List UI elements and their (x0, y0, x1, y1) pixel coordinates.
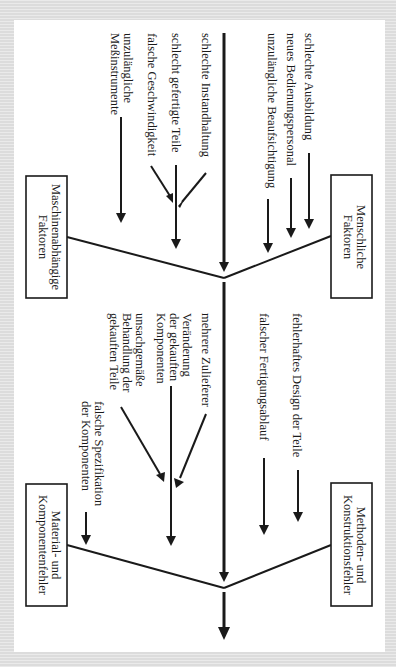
cause-label: schlechte Ausbildung (302, 33, 316, 141)
cause-label: Veränderung (180, 313, 194, 378)
cause-label: fehlerhaftes Design der Teile (290, 313, 304, 458)
cause-label: Komponenten (154, 313, 168, 385)
material-causes: mehrere Zulieferer Veränderung der gekau… (79, 313, 213, 546)
arrowhead-icon (156, 472, 165, 482)
arrowhead-icon (304, 219, 314, 229)
category-box-human: Menschliche Faktoren (331, 175, 372, 298)
method-cause-arrows (264, 458, 298, 527)
cause-label: mehrere Zulieferer (199, 313, 213, 408)
category-box-method: Methoden- und Konstruktionsfehler (331, 483, 372, 606)
fishbone-diagram: Menschliche Faktoren Maschinenabhängige … (0, 0, 396, 667)
arrowhead-icon (171, 239, 181, 249)
cause-label: falsche Spezifikation (92, 401, 106, 507)
cause-label: falsche Geschwindigkeit (145, 33, 159, 157)
cause-label: Meßinstrumente (108, 33, 122, 115)
arrowhead-icon (174, 478, 184, 488)
human-category-label-line1: Menschliche (354, 205, 368, 269)
cause-label: der gekauften (167, 313, 181, 382)
method-causes: fehlerhaftes Design der Teile falscher F… (257, 313, 304, 535)
arrowhead-icon (263, 243, 273, 253)
material-category-label-line1: Material- und (49, 511, 63, 580)
category-box-machine: Maschinenabhängige Faktoren (26, 176, 67, 298)
arrowhead-icon (259, 525, 269, 535)
arrowhead-icon (116, 213, 126, 223)
cause-label: neues Bedienungspersonal (284, 33, 298, 166)
material-category-label-line2: Komponentenfehler (36, 495, 50, 596)
cause-label: der Komponenten (79, 401, 93, 492)
category-box-material: Material- und Komponentenfehler (26, 484, 67, 606)
cause-label: unzulängliche (121, 33, 135, 104)
cause-label: gekauften Teile (107, 313, 121, 390)
lower-junction-lines (67, 545, 331, 588)
main-spine (218, 33, 230, 640)
machine-category-label-line1: Maschinenabhängige (49, 184, 63, 291)
cause-label: schlecht gefertigte Teile (169, 33, 183, 153)
method-category-label-line1: Methoden- und (354, 507, 368, 584)
cause-label: schlechte Instandhaltung (199, 33, 213, 158)
cause-label: Behandlung der (120, 313, 134, 393)
cause-label: falscher Fertigungsablauf (257, 313, 271, 441)
cause-label: unzulängliche Beaufsichtigung (265, 33, 279, 189)
arrowhead-icon (166, 193, 173, 203)
arrowhead-icon (166, 536, 176, 546)
method-category-label-line2: Konstruktionsfehler (341, 495, 355, 596)
machine-causes: schlechte Instandhaltung schlecht gefert… (108, 33, 213, 249)
arrowhead-icon (286, 228, 296, 238)
human-category-label-line2: Faktoren (341, 215, 355, 260)
machine-category-label-line2: Faktoren (36, 215, 50, 260)
arrowhead-icon (81, 535, 91, 545)
human-causes: schlechte Ausbildung neues Bedienungsper… (263, 33, 316, 253)
upper-junction-lines (67, 236, 331, 278)
machine-cause-arrows (121, 117, 206, 240)
cause-label: unsachgemäße (133, 313, 147, 387)
arrowhead-icon (178, 198, 185, 208)
arrowhead-icon (293, 512, 303, 522)
